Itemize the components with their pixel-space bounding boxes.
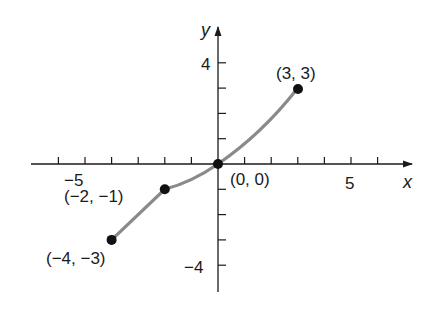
point-origin	[213, 159, 223, 169]
point-3-3	[293, 84, 303, 94]
graph: y x −5 5 4 −4 (−4, −3) (−2, −1) (0, 0) (…	[0, 0, 443, 310]
tick-label-y-4: 4	[201, 55, 210, 74]
y-axis-label: y	[199, 20, 211, 40]
point-label-neg2-neg1: (−2, −1)	[64, 187, 124, 206]
point-label-origin: (0, 0)	[230, 170, 270, 189]
x-axis-label: x	[402, 172, 413, 192]
point-neg2-neg1	[160, 184, 170, 194]
point-label-neg4-neg3: (−4, −3)	[46, 249, 106, 268]
tick-label-x-5: 5	[345, 174, 354, 193]
point-neg4-neg3	[107, 235, 117, 245]
tick-label-y-neg4: −4	[184, 258, 203, 277]
point-label-3-3: (3, 3)	[276, 64, 316, 83]
